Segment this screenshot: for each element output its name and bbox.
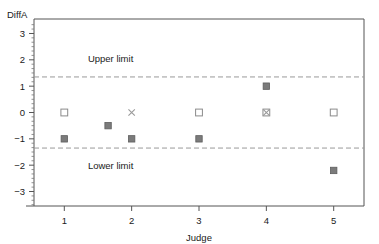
data-point-filled-square [196, 136, 202, 142]
plot-canvas: 3210−1−2−312345JudgeUpper limitLower lim… [0, 0, 379, 244]
x-tick-label: 3 [196, 215, 201, 226]
data-point-open-square [196, 109, 203, 116]
annotation-upper-limit: Upper limit [88, 53, 134, 64]
plot-frame [34, 19, 364, 206]
y-axis-title: DiffA [7, 9, 27, 20]
data-point-filled-square [128, 136, 134, 142]
y-tick-label: 0 [20, 107, 25, 118]
x-axis-title: Judge [186, 232, 212, 243]
y-tick-label: 3 [20, 28, 25, 39]
data-point-filled-square [105, 122, 111, 128]
data-point-cross [263, 109, 269, 115]
annotation-lower-limit: Lower limit [88, 160, 134, 171]
y-tick-label: −1 [14, 133, 25, 144]
y-tick-label: 2 [20, 54, 25, 65]
data-point-open-square [330, 109, 337, 116]
data-point-cross [128, 109, 134, 115]
data-point-filled-square [61, 136, 67, 142]
x-tick-label: 5 [331, 215, 336, 226]
data-point-filled-square [330, 167, 336, 173]
y-tick-label: −3 [14, 186, 25, 197]
x-tick-label: 2 [129, 215, 134, 226]
data-point-filled-square [263, 83, 269, 89]
data-point-open-square [61, 109, 68, 116]
y-tick-label: −2 [14, 160, 25, 171]
y-tick-label: 1 [20, 81, 25, 92]
x-tick-label: 4 [264, 215, 269, 226]
x-tick-label: 1 [62, 215, 67, 226]
scatter-plot-diffa-by-judge: 3210−1−2−312345JudgeUpper limitLower lim… [0, 0, 379, 244]
